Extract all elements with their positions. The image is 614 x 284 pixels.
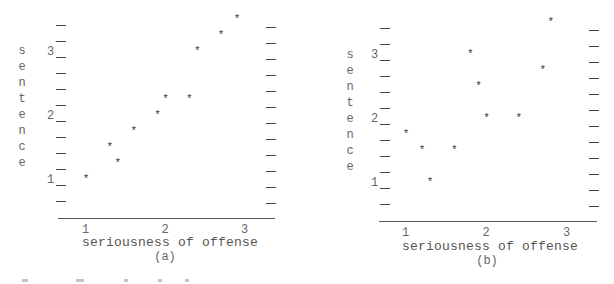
y-tick-right [589,110,599,111]
y-tick-left [380,76,390,77]
y-tick-right [589,62,599,63]
y-axis-label-letter: t [345,97,355,109]
y-axis-label-letter: e [345,65,355,77]
y-tick-right [589,46,599,47]
y-tick-left [380,60,390,61]
scatter-panel-b: 123123sentenceseriousness of offense(b)*… [0,0,307,284]
x-tick-label: 3 [563,227,570,239]
y-axis-label-letter: n [345,129,355,141]
y-axis-label-letter: n [345,81,355,93]
y-tick-right [589,142,599,143]
y-tick-right [589,94,599,95]
y-tick-right [589,190,599,191]
x-axis-title: seriousness of offense [402,240,578,254]
data-point-star: * [546,16,556,27]
y-tick-right [589,174,599,175]
y-tick-left [380,172,390,173]
y-axis-label-letter: e [345,161,355,173]
data-point-star: * [482,112,492,123]
cutoff-caption-mark [158,279,162,282]
panel-label: (b) [476,255,498,268]
data-point-star: * [514,112,524,123]
y-tick-right [589,206,599,207]
y-tick-left [380,188,390,189]
data-point-star: * [417,144,427,155]
cutoff-caption-mark [185,279,189,282]
y-tick-left [380,140,390,141]
data-point-star: * [473,80,483,91]
x-tick-label: 1 [402,227,409,239]
data-point-star: * [401,128,411,139]
y-tick-label: 3 [371,49,378,61]
data-point-star: * [449,144,459,155]
y-tick-left [380,108,390,109]
cutoff-caption-mark [22,279,28,282]
data-point-star: * [538,64,548,75]
y-axis-label-letter: s [345,49,355,61]
cutoff-caption-mark [124,279,128,282]
data-point-star: * [425,176,435,187]
y-tick-left [380,156,390,157]
y-tick-left [380,28,390,29]
y-tick-left [380,204,390,205]
y-tick-label: 1 [371,177,378,189]
y-axis-label-letter: e [345,113,355,125]
y-tick-left [380,44,390,45]
y-tick-left [380,92,390,93]
y-tick-label: 2 [371,113,378,125]
y-axis-label-letter: c [345,145,355,157]
x-axis-line [379,221,597,222]
y-tick-right [589,158,599,159]
x-tick-label: 2 [483,227,490,239]
y-tick-right [589,78,599,79]
y-tick-right [589,126,599,127]
y-tick-left [380,124,390,125]
cutoff-caption-mark [76,279,84,282]
y-tick-right [589,30,599,31]
data-point-star: * [465,48,475,59]
